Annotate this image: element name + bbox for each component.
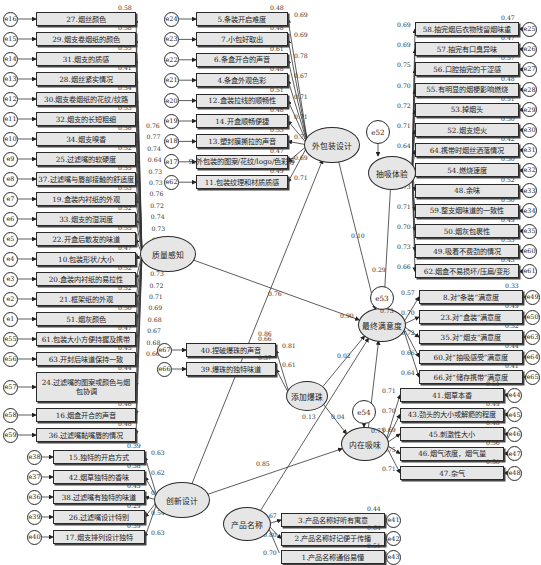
path-coefficient: 0.85 [256,460,270,467]
path-coefficient: 0.29 [372,266,386,273]
error-term: e9 [3,152,18,167]
r-squared: 0.39 [127,442,141,449]
error-term: e32 [522,163,537,178]
path-arrow [323,336,365,386]
r-squared: 0.49 [270,167,284,174]
r-squared: 0.58 [118,4,132,11]
error-term: e57 [3,380,18,395]
error-term: e2 [3,292,18,307]
r-squared: 0.38 [127,462,141,469]
indicator-box: 1.产品名称通俗易懂 [281,550,385,564]
r-squared: 0.43 [501,256,515,263]
error-term: e43 [386,550,401,565]
factor-loading: 0.78 [294,52,308,59]
factor-loading: 0.66 [397,263,411,270]
indicator-box: 62.烟盒不易损坏/压扁/变形 [415,264,519,278]
latent-variable-smoking: 抽吸体验 [368,156,416,190]
r-squared: 0.48 [270,106,284,113]
error-term: e31 [522,143,537,158]
factor-loading: 0.73 [151,225,165,232]
r-squared: 0.52 [118,284,132,291]
error-term: e37 [27,470,42,485]
error-term: e66 [157,362,172,377]
indicator-box: 17.烟支排列设计独特 [53,530,145,544]
error-term: e24 [164,12,179,27]
factor-loading: 0.61 [282,361,296,368]
indicator-box: 47.杂气 [400,466,504,480]
r-squared: 0.49 [505,302,519,309]
r-squared: 0.48 [501,75,515,82]
factor-loading: 0.70 [263,549,277,556]
path-coefficient: 0.02 [337,352,351,359]
r-squared: 0.52 [118,204,132,211]
r-squared: 0.44 [118,364,132,371]
error-term: e36 [27,490,42,505]
factor-loading: 0.67 [294,72,308,79]
r-squared: 0.50 [501,155,515,162]
residual-e54: e54 [352,400,376,424]
r-squared: 0.48 [118,420,132,427]
indicator-box: 66.对“储存携带”满意度 [419,370,523,384]
factor-loading: 0.71 [294,174,308,181]
r-squared: 0.58 [118,24,132,31]
factor-loading: 0.64 [148,156,162,163]
factor-loading: 0.76 [146,122,160,129]
factor-loading: 0.70 [382,407,396,414]
error-term: e42 [386,531,401,546]
r-squared: 0.44 [367,505,381,512]
error-term: e27 [522,62,537,77]
r-squared: 0.39 [127,522,141,529]
factor-loading: 0.73 [397,243,411,250]
error-term: e39 [27,510,42,525]
factor-loading: 0.70 [397,223,411,230]
r-squared: 0.42 [501,135,515,142]
error-term: e5 [3,232,18,247]
factor-loading: 0.68 [148,316,162,323]
r-squared: 0.73 [380,307,394,314]
factor-loading: 0.69 [148,304,162,311]
r-squared: 0.48 [270,24,284,31]
error-term: e11 [3,112,18,127]
factor-loading: 0.72 [397,102,411,109]
error-term: e33 [522,183,537,198]
r-squared: 0.57 [501,54,515,61]
factor-loading: 0.69 [294,154,308,161]
factor-loading: 0.71 [382,465,396,472]
error-term: e21 [164,73,179,88]
r-squared: 0.47 [501,14,515,21]
r-squared: 0.46 [118,400,132,407]
path-arrow [191,160,323,487]
r-squared: 0.47 [118,324,132,331]
factor-loading: 0.71 [397,122,411,129]
factor-loading: 0.75 [397,61,411,68]
error-term: e30 [522,123,537,138]
error-term: e10 [3,132,18,147]
r-squared: 0.52 [501,176,515,183]
r-squared: 0.44 [505,342,519,349]
r-squared: 0.56 [486,439,500,446]
r-squared: 0.53 [118,184,132,191]
error-term: e7 [3,192,18,207]
r-squared: 0.37 [258,354,272,361]
factor-loading: 0.71 [382,387,396,394]
r-squared: 0.54 [118,84,132,91]
r-squared: 0.48 [270,65,284,72]
error-term: e64 [525,350,540,365]
r-squared: 0.55 [118,44,132,51]
error-term: e41 [386,513,401,528]
r-squared: 0.52 [118,264,132,271]
error-term: e20 [164,93,179,108]
residual-e52: e52 [366,120,390,144]
error-term: e56 [3,352,18,367]
error-term: e46 [507,427,522,442]
error-term: e47 [507,446,522,461]
error-term: e61 [522,264,537,279]
factor-loading: 0.63 [151,529,165,536]
r-squared: 0.52 [505,322,519,329]
r-squared: 0.64 [367,524,381,531]
factor-loading: 0.71 [149,293,163,300]
factor-loading: 0.67 [147,327,161,334]
factor-loading: 0.74 [147,145,161,152]
r-squared: 0.51 [486,380,500,387]
factor-loading: 0.62 [151,469,165,476]
